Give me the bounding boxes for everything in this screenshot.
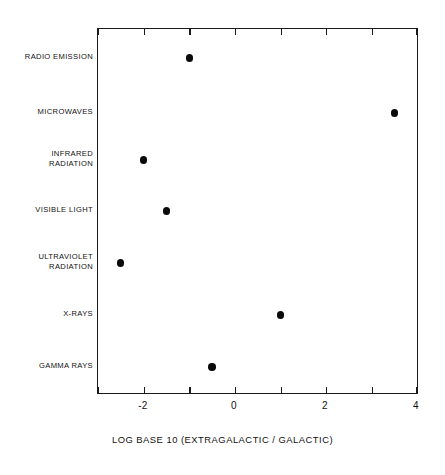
data-point-x-rays[interactable] bbox=[277, 311, 284, 318]
data-point-radio-emission[interactable] bbox=[186, 54, 193, 61]
x-tick-label-2: 2 bbox=[305, 400, 345, 411]
category-label-radio-emission: RADIO EMISSION bbox=[3, 52, 93, 62]
x-tick-bottom-1 bbox=[281, 387, 282, 393]
x-tick-label--2: -2 bbox=[123, 400, 163, 411]
category-label-infrared-radiation: INFRARED RADIATION bbox=[3, 149, 93, 168]
x-tick-top--2 bbox=[144, 29, 145, 35]
data-point-microwaves[interactable] bbox=[391, 109, 398, 116]
data-point-ultraviolet-radiation[interactable] bbox=[117, 259, 124, 266]
category-axis-labels: RADIO EMISSION MICROWAVES INFRARED RADIA… bbox=[0, 0, 93, 475]
data-point-gamma-rays[interactable] bbox=[208, 363, 215, 370]
x-tick-bottom-4 bbox=[416, 387, 417, 393]
x-tick-top-0 bbox=[235, 29, 236, 35]
x-tick-label-4: 4 bbox=[396, 400, 436, 411]
plot-area bbox=[97, 28, 418, 394]
category-label-visible-light: VISIBLE LIGHT bbox=[3, 205, 93, 215]
x-axis-title: LOG BASE 10 (EXTRAGALACTIC / GALACTIC) bbox=[0, 434, 445, 445]
category-label-x-rays: X-RAYS bbox=[3, 309, 93, 319]
scatter-chart-figure: RADIO EMISSION MICROWAVES INFRARED RADIA… bbox=[0, 0, 445, 475]
x-tick-top--1 bbox=[189, 29, 190, 35]
category-label-microwaves: MICROWAVES bbox=[3, 107, 93, 117]
x-tick-top-4 bbox=[416, 29, 417, 35]
x-tick-bottom--1 bbox=[189, 387, 190, 393]
x-tick-bottom--3 bbox=[98, 387, 99, 393]
x-tick-top-3 bbox=[372, 29, 373, 35]
x-tick-bottom-2 bbox=[326, 387, 327, 393]
x-tick-label-0: 0 bbox=[214, 400, 254, 411]
data-point-infrared-radiation[interactable] bbox=[140, 156, 147, 163]
x-tick-bottom-0 bbox=[235, 387, 236, 393]
data-point-visible-light[interactable] bbox=[163, 207, 170, 214]
x-tick-bottom--2 bbox=[144, 387, 145, 393]
x-tick-top-2 bbox=[326, 29, 327, 35]
x-tick-bottom-3 bbox=[372, 387, 373, 393]
x-tick-top-1 bbox=[281, 29, 282, 35]
x-tick-top--3 bbox=[98, 29, 99, 35]
category-label-ultraviolet-radiation: ULTRAVIOLET RADIATION bbox=[3, 252, 93, 271]
category-label-gamma-rays: GAMMA RAYS bbox=[3, 361, 93, 371]
